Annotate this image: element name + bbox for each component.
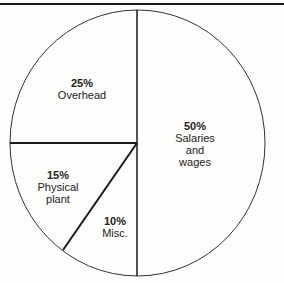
svg-text:Overhead: Overhead	[58, 89, 106, 101]
svg-text:wages: wages	[178, 156, 211, 168]
svg-text:50%: 50%	[184, 120, 206, 132]
svg-text:plant: plant	[46, 193, 70, 205]
svg-text:Salaries: Salaries	[175, 132, 215, 144]
svg-text:Physical: Physical	[38, 181, 79, 193]
svg-text:and: and	[186, 144, 204, 156]
svg-text:10%: 10%	[104, 215, 126, 227]
svg-text:15%: 15%	[47, 169, 69, 181]
slice-label-misc: 10% Misc.	[102, 215, 128, 239]
svg-text:25%: 25%	[71, 77, 93, 89]
svg-text:Misc.: Misc.	[102, 227, 128, 239]
pie-chart: 25% Overhead 50% Salaries and wages 15% …	[0, 0, 284, 283]
